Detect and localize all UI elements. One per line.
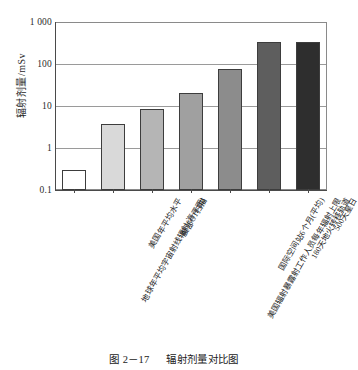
bar-4 [218,69,242,190]
y-tick-10: 10 [2,101,52,111]
figure-number: 图 2－17 [109,354,149,365]
figure-caption: 图 2－17 辐射剂量对比图 [0,351,348,366]
y-axis-tick-labels: 1 000 100 10 1 0.1 [0,0,52,370]
bar-6 [296,42,320,190]
bar-5 [257,42,281,190]
bar-2 [140,109,164,190]
y-tick-1: 1 [2,143,52,153]
y-tick-0.1: 0.1 [2,185,52,195]
y-tick-1000: 1 000 [2,17,52,27]
bar-0 [62,170,86,190]
bar-1 [101,124,125,190]
x-label-3: 美国辐射暴露射工作人员每年辐射上限 [266,196,343,320]
x-axis-category-labels: 地球年平均宇宙射线辐射(海平面) 美国年平均水平 腹部CT扫描 美国辐射暴露射工… [55,192,327,312]
y-tick-100: 100 [2,59,52,69]
bar-series [55,22,327,190]
figure-caption-text: 辐射剂量对比图 [166,354,238,365]
bar-3 [179,93,203,190]
